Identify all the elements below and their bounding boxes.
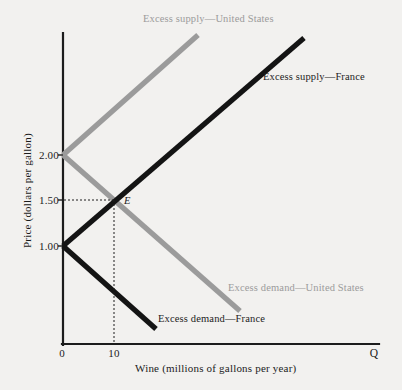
curve-excess-supply-france — [63, 38, 304, 246]
label-excess-supply-united-states: Excess supply—United States — [143, 13, 274, 24]
label-excess-demand-france: Excess demand—France — [158, 313, 265, 324]
equilibrium-point-label: E — [123, 195, 131, 206]
label-excess-demand-united-states: Excess demand—United States — [228, 282, 364, 293]
y-tick-label-100: 1.00 — [39, 240, 59, 252]
excess-supply-demand-chart: 2.00 1.50 1.00 0 10 Q Price (dollars per… — [0, 0, 402, 390]
x-tick-label-10: 10 — [108, 347, 120, 359]
y-tick-label-200: 2.00 — [39, 149, 59, 161]
curve-excess-demand-france — [63, 246, 156, 329]
curve-excess-supply-united-states — [63, 35, 198, 155]
economics-chart-figure: 2.00 1.50 1.00 0 10 Q Price (dollars per… — [0, 0, 402, 390]
x-axis-title: Wine (millions of gallons per year) — [135, 362, 297, 375]
y-tick-label-150: 1.50 — [39, 194, 59, 206]
x-tick-label-0: 0 — [59, 347, 65, 359]
y-axis-title: Price (dollars per gallon) — [21, 133, 34, 248]
x-axis-symbol: Q — [370, 347, 379, 359]
curve-excess-demand-united-states — [63, 155, 240, 311]
label-excess-supply-france: Excess supply—France — [263, 71, 365, 82]
